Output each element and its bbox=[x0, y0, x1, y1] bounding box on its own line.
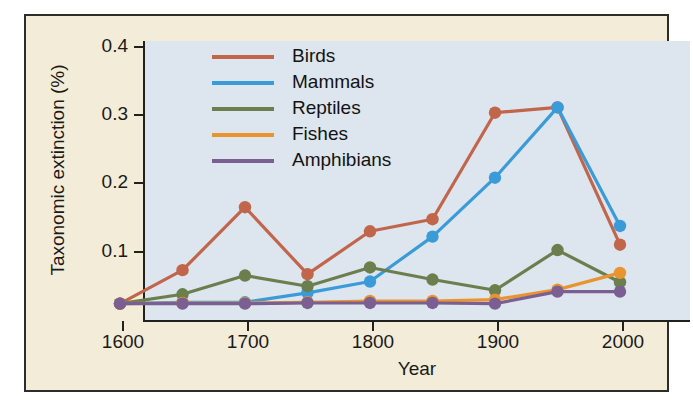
legend-swatch-reptiles bbox=[212, 107, 274, 111]
legend-swatch-mammals bbox=[212, 81, 274, 85]
y-tick-label-0.3: 0.3 bbox=[76, 104, 128, 123]
y-tick-label-0.1: 0.1 bbox=[76, 241, 128, 260]
legend-swatch-amphibians bbox=[212, 159, 274, 163]
x-tick-label-2000: 2000 bbox=[583, 332, 663, 351]
y-axis-label: Taxonomic extinction (%) bbox=[47, 40, 69, 300]
x-tick-1900 bbox=[497, 321, 499, 331]
y-tick-0.4 bbox=[134, 46, 145, 48]
y-tick-0.1 bbox=[134, 251, 145, 253]
x-tick-1800 bbox=[372, 321, 374, 331]
x-tick-2000 bbox=[622, 321, 624, 331]
x-tick-label-1600: 1600 bbox=[83, 332, 163, 351]
x-tick-label-1700: 1700 bbox=[208, 332, 288, 351]
figure-root: 0.4 0.3 0.2 0.1 1600 1700 1800 1900 2000… bbox=[0, 0, 693, 415]
x-tick-label-1800: 1800 bbox=[333, 332, 413, 351]
y-tick-label-0.2: 0.2 bbox=[76, 172, 128, 191]
legend-swatch-fishes bbox=[212, 133, 274, 137]
legend-label-reptiles: Reptiles bbox=[292, 96, 361, 120]
legend-label-amphibians: Amphibians bbox=[292, 148, 391, 172]
legend-swatch-birds bbox=[212, 55, 274, 59]
chart-panel: 0.4 0.3 0.2 0.1 1600 1700 1800 1900 2000… bbox=[24, 14, 669, 392]
legend-label-mammals: Mammals bbox=[292, 70, 374, 94]
y-tick-0.2 bbox=[134, 182, 145, 184]
y-tick-label-0.4: 0.4 bbox=[76, 36, 128, 55]
x-tick-label-1900: 1900 bbox=[458, 332, 538, 351]
x-tick-1600 bbox=[122, 321, 124, 331]
x-tick-1700 bbox=[247, 321, 249, 331]
x-axis-label: Year bbox=[144, 358, 690, 380]
y-tick-0.3 bbox=[134, 114, 145, 116]
x-axis-line bbox=[143, 320, 690, 322]
legend-label-birds: Birds bbox=[292, 44, 335, 68]
legend-label-fishes: Fishes bbox=[292, 122, 348, 146]
